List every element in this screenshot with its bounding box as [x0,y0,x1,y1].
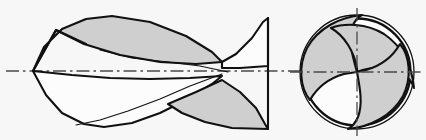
side-upper-flute-shaded [33,16,222,71]
drawing-svg [0,0,426,140]
technical-drawing-canvas [0,0,426,140]
side-tip-seam-primary [33,30,56,71]
side-elevation-view [6,16,300,129]
side-upper-land-surface [222,18,268,68]
end-view [290,8,424,136]
